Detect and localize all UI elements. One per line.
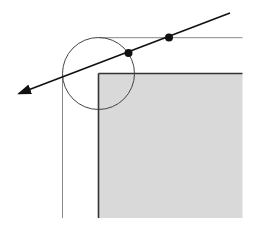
shaded-rectangle bbox=[99, 74, 243, 219]
intersection-offset-line-dot bbox=[165, 34, 173, 42]
offset-corner-diagram bbox=[0, 0, 255, 230]
intersection-circle-dot bbox=[125, 49, 133, 57]
